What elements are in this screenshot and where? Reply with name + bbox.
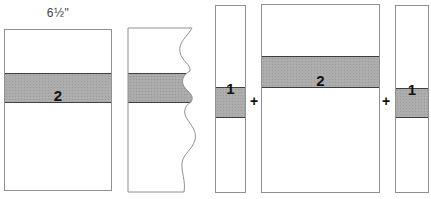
piece-full-strip: 2 — [4, 29, 112, 191]
piece-rect-2: 2 — [261, 4, 380, 193]
torn-edge-strip — [120, 0, 205, 199]
shaded-band: 2 — [5, 73, 111, 103]
shaded-band: 1 — [396, 88, 428, 118]
shaded-band: 2 — [262, 56, 379, 88]
plus-operator: + — [246, 93, 262, 109]
shaded-band — [128, 73, 200, 103]
piece-strip-1-left: 1 — [215, 5, 246, 193]
shaded-band: 1 — [216, 87, 245, 118]
plus-operator: + — [378, 93, 394, 109]
piece-number-label: 1 — [216, 81, 245, 96]
piece-strip-1-right: 1 — [395, 5, 429, 193]
piece-number-label: 2 — [5, 89, 111, 102]
quilt-piecing-diagram: 6½" 2 1 + — [0, 0, 431, 199]
piece-number-label: 1 — [396, 82, 428, 97]
width-measurement-label: 6½" — [4, 6, 112, 20]
piece-number-label: 2 — [262, 74, 379, 87]
